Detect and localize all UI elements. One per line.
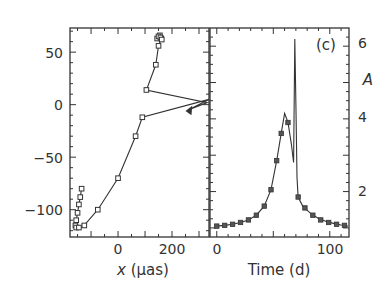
magnification-marker bbox=[215, 224, 219, 228]
magnification-marker bbox=[342, 223, 346, 227]
trajectory-line bbox=[75, 35, 209, 227]
left-x-axis-title: x (µas) bbox=[116, 261, 169, 279]
right-ytick-2: 2 bbox=[358, 183, 367, 199]
trajectory-marker bbox=[82, 223, 87, 228]
trajectory-marker bbox=[140, 115, 145, 120]
magnification-marker bbox=[274, 158, 278, 162]
magnification-marker bbox=[254, 213, 258, 217]
magnification-marker bbox=[238, 220, 242, 224]
magnification-marker bbox=[269, 188, 273, 192]
right-panel: (c) 6 4 2 A 0 100 Time (d) bbox=[210, 28, 373, 279]
left-axis-ticks bbox=[70, 28, 209, 237]
right-ytick-4: 4 bbox=[358, 109, 367, 125]
right-y-axis-title: A bbox=[362, 71, 373, 89]
right-xtick-0: 0 bbox=[213, 241, 222, 257]
x-unit: (µas) bbox=[126, 261, 169, 279]
trajectory-marker bbox=[75, 211, 80, 216]
trajectory-marker bbox=[77, 202, 82, 207]
left-panel: 50 0 −50 −100 0 200 x (µas) bbox=[25, 28, 209, 279]
magnification-marker bbox=[296, 195, 300, 199]
magnification-marker bbox=[262, 204, 266, 208]
left-ytick-50: 50 bbox=[45, 45, 63, 61]
chart-canvas: 50 0 −50 −100 0 200 x (µas) (c) 6 4 2 A … bbox=[0, 0, 390, 301]
x-variable: x bbox=[116, 261, 126, 279]
magnification-marker bbox=[319, 218, 323, 222]
trajectory-marker bbox=[154, 62, 159, 67]
trajectory-marker bbox=[96, 207, 101, 212]
arrow-head-icon bbox=[186, 106, 193, 115]
left-xtick-200: 200 bbox=[159, 241, 186, 257]
left-ytick-minus50: −50 bbox=[33, 150, 63, 166]
left-ytick-0: 0 bbox=[54, 97, 63, 113]
trajectory-marker bbox=[144, 88, 149, 93]
right-x-axis-title: Time (d) bbox=[247, 261, 311, 279]
magnification-marker bbox=[311, 213, 315, 217]
left-plot-frame bbox=[70, 28, 209, 237]
magnification-marker bbox=[303, 206, 307, 210]
magnification-marker bbox=[279, 131, 283, 135]
magnification-marker bbox=[326, 220, 330, 224]
magnification-marker bbox=[246, 218, 250, 222]
magnification-marker bbox=[334, 222, 338, 226]
magnification-marker bbox=[222, 223, 226, 227]
right-ytick-6: 6 bbox=[358, 35, 367, 51]
trajectory-marker bbox=[74, 218, 79, 223]
trajectory-marker bbox=[133, 134, 138, 139]
trajectory-marker bbox=[79, 186, 84, 191]
magnification-marker bbox=[286, 120, 290, 124]
right-xtick-100: 100 bbox=[317, 241, 344, 257]
trajectory-markers bbox=[73, 33, 192, 230]
panel-label: (c) bbox=[316, 36, 336, 54]
trajectory-marker bbox=[156, 44, 161, 49]
trajectory-marker bbox=[159, 37, 164, 42]
trajectory-marker bbox=[116, 176, 121, 181]
left-xtick-0: 0 bbox=[114, 241, 123, 257]
left-ytick-minus100: −100 bbox=[25, 202, 63, 218]
trajectory-marker bbox=[77, 225, 82, 230]
trajectory-marker bbox=[78, 195, 83, 200]
magnification-marker bbox=[230, 222, 234, 226]
